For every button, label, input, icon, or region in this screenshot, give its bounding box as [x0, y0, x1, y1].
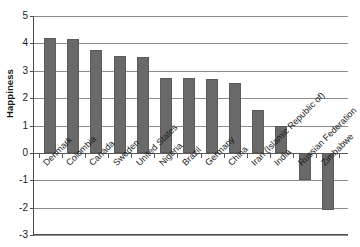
- gridline: [34, 71, 348, 72]
- y-tick-mark: [30, 126, 34, 127]
- bar: [67, 39, 79, 153]
- bar: [229, 83, 241, 153]
- y-tick-mark: [30, 98, 34, 99]
- y-tick-mark: [30, 43, 34, 44]
- x-tick-mark: [316, 153, 317, 158]
- y-tick-label: -2: [14, 203, 28, 213]
- bar: [160, 78, 172, 153]
- bar: [137, 57, 149, 153]
- y-tick-mark: [30, 180, 34, 181]
- bar: [114, 56, 126, 153]
- y-tick-label: 3: [14, 66, 28, 76]
- y-tick-mark: [30, 16, 34, 17]
- x-tick-mark: [131, 153, 132, 158]
- x-tick-mark: [108, 153, 109, 158]
- y-tick-mark: [30, 208, 34, 209]
- plot-area: [33, 16, 348, 235]
- y-axis-tick-labels: 543210-1-2-3: [14, 0, 28, 247]
- y-tick-label: 2: [14, 93, 28, 103]
- y-tick-label: 1: [14, 121, 28, 131]
- x-tick-mark: [177, 153, 178, 158]
- y-tick-label: 4: [14, 38, 28, 48]
- x-tick-mark: [293, 153, 294, 158]
- y-tick-label: 5: [14, 11, 28, 21]
- x-tick-mark: [247, 153, 248, 158]
- x-tick-mark: [270, 153, 271, 158]
- bar: [206, 79, 218, 153]
- gridline: [34, 235, 348, 236]
- happiness-bar-chart: Happiness 543210-1-2-3 DenmarkColombiaCa…: [0, 0, 360, 247]
- y-tick-label: -1: [14, 175, 28, 185]
- x-tick-mark: [85, 153, 86, 158]
- gridline: [34, 16, 348, 17]
- bar: [90, 50, 102, 153]
- y-axis-title: Happiness: [4, 58, 15, 130]
- x-tick-mark: [224, 153, 225, 158]
- bar: [299, 153, 311, 180]
- bar: [44, 38, 56, 153]
- x-tick-mark: [39, 153, 40, 158]
- plot-inner: [34, 16, 348, 234]
- x-tick-mark: [201, 153, 202, 158]
- y-tick-label: 0: [14, 148, 28, 158]
- y-tick-label: -3: [14, 230, 28, 240]
- y-tick-mark: [30, 153, 34, 154]
- y-tick-mark: [30, 235, 34, 236]
- x-tick-mark: [154, 153, 155, 158]
- gridline: [34, 208, 348, 209]
- y-tick-mark: [30, 71, 34, 72]
- bar: [322, 153, 334, 210]
- gridline: [34, 180, 348, 181]
- x-tick-mark: [339, 153, 340, 158]
- bar: [275, 126, 287, 153]
- bar: [252, 110, 264, 152]
- gridline: [34, 43, 348, 44]
- bar: [183, 78, 195, 153]
- x-tick-mark: [62, 153, 63, 158]
